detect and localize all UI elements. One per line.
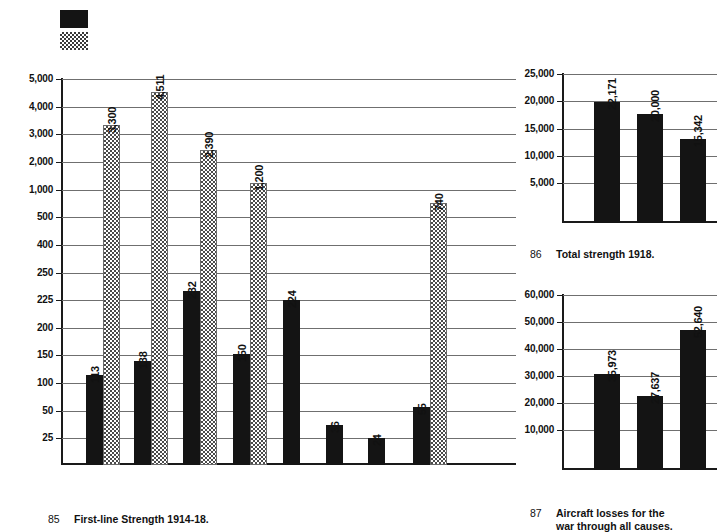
chart-87-aircraft-losses: 60,00050,00040,00030,00020,00010,00035,9…	[520, 280, 728, 490]
chart-85-y-label: 200	[6, 323, 53, 333]
caption-86-number: 86	[530, 248, 556, 261]
chart-85-bar-value: 4,511	[154, 74, 166, 99]
chart-85-bar-value: 138	[137, 352, 149, 369]
chart-85-bar-value: 740	[433, 193, 445, 210]
chart-86-bar	[594, 102, 620, 223]
caption-87: 87Aircraft losses for the war through al…	[530, 494, 673, 532]
chart-85-y-tick	[56, 162, 62, 163]
chart-87-bar-value: 27,637	[649, 372, 661, 404]
chart-85-y-tick	[56, 383, 62, 384]
chart-86-bar-value: 22,171	[606, 78, 618, 110]
chart-87-y-tick	[557, 376, 563, 377]
chart-87-y-label: 60,000	[520, 290, 554, 300]
chart-85-bar	[151, 92, 168, 465]
chart-85-y-tick	[56, 134, 62, 135]
chart-85-y-tick	[56, 273, 62, 274]
chart-86-plot-area: 25,00020,00015,00010,0005,00022,17120,00…	[562, 73, 717, 223]
chart-85-y-tick	[56, 411, 62, 412]
chart-87-y-tick	[557, 322, 563, 323]
chart-85-bar	[250, 183, 267, 465]
chart-85-gridline	[61, 190, 516, 191]
chart-85-gridline	[61, 217, 516, 218]
chart-85-y-label: 50	[6, 406, 53, 416]
chart-85-y-tick	[56, 79, 62, 80]
chart-85-y-tick	[56, 355, 62, 356]
caption-85: 85First-line Strength 1914-18.	[48, 500, 209, 526]
chart-85-y-label: 225	[6, 295, 53, 305]
chart-87-y-tick	[557, 349, 563, 350]
chart-85-bar	[430, 203, 447, 465]
chart-86-y-tick	[557, 183, 563, 184]
chart-86-bar-value: 15,342	[692, 115, 704, 147]
chart-85-y-tick	[56, 300, 62, 301]
chart-85-bar	[86, 375, 103, 465]
chart-85-y-label: 2,000	[6, 157, 53, 167]
chart-87-y-tick	[557, 403, 563, 404]
chart-85-y-label: 100	[6, 378, 53, 388]
chart-87-gridline	[562, 295, 717, 296]
chart-86-y-label: 15,000	[520, 124, 554, 134]
chart-85-bar-value: 150	[236, 345, 248, 362]
chart-87-bar	[594, 374, 620, 470]
chart-86-y-tick	[557, 74, 563, 75]
chart-85-bar-value: 113	[89, 366, 101, 383]
chart-85-gridline	[61, 107, 516, 108]
chart-87-bar	[680, 330, 706, 470]
chart-86-bar	[680, 139, 706, 223]
chart-86-gridline	[562, 101, 717, 102]
chart-85-bar-value: 36	[329, 422, 341, 434]
chart-87-plot-area: 60,00050,00040,00030,00020,00010,00035,9…	[562, 294, 717, 470]
chart-85-y-label: 400	[6, 240, 53, 250]
chart-86-y-label: 5,000	[520, 178, 554, 188]
chart-85-gridline	[61, 162, 516, 163]
chart-87-y-tick	[557, 430, 563, 431]
caption-85-number: 85	[48, 513, 74, 526]
chart-85-y-label: 500	[6, 212, 53, 222]
chart-87-y-label: 40,000	[520, 344, 554, 354]
chart-85-y-label: 25	[6, 433, 53, 443]
chart-87-y-label: 20,000	[520, 398, 554, 408]
chart-85-plot-area: 5,0004,0003,0002,0001,000500400250225200…	[61, 78, 516, 465]
chart-87-bar-value: 52,640	[692, 306, 704, 338]
figure-page: 5,0004,0003,0002,0001,000500400250225200…	[0, 0, 728, 532]
chart-87-y-label: 50,000	[520, 317, 554, 327]
caption-85-text: First-line Strength 1914-18.	[74, 513, 209, 526]
chart-87-y-axis	[562, 294, 564, 470]
chart-85-bar	[233, 354, 250, 465]
chart-85-gridline	[61, 79, 516, 80]
chart-85-bar	[283, 300, 300, 465]
chart-87-y-tick	[557, 295, 563, 296]
chart-85-y-label: 3,000	[6, 129, 53, 139]
chart-85-gridline	[61, 273, 516, 274]
chart-86-y-tick	[557, 129, 563, 130]
chart-85-y-label: 150	[6, 350, 53, 360]
chart-85-y-tick	[56, 217, 62, 218]
chart-87-y-label: 30,000	[520, 371, 554, 381]
chart-85-y-tick	[56, 245, 62, 246]
chart-85-bar	[183, 291, 200, 465]
chart-86-y-tick	[557, 156, 563, 157]
chart-85-bar-value: 24	[371, 435, 383, 447]
chart-85-y-tick	[56, 107, 62, 108]
caption-87-text: Aircraft losses for the war through all …	[556, 507, 673, 532]
chart-85-y-label: 5,000	[6, 74, 53, 84]
chart-85-y-label: 250	[6, 268, 53, 278]
chart-86-y-label: 20,000	[520, 96, 554, 106]
chart-85-bar-value: 232	[186, 282, 198, 299]
chart-86-y-label: 10,000	[520, 151, 554, 161]
chart-87-bar	[637, 396, 663, 470]
chart-86-bar-value: 20,000	[649, 90, 661, 122]
chart-85-bar	[413, 407, 430, 465]
chart-86-y-label: 25,000	[520, 69, 554, 79]
chart-85-bar	[103, 125, 120, 465]
chart-85-bar	[134, 361, 151, 465]
chart-87-bar-value: 35,973	[606, 350, 618, 382]
caption-86: 86Total strength 1918.	[530, 235, 654, 261]
caption-86-text: Total strength 1918.	[556, 248, 654, 261]
chart-85-bar-value: 55	[416, 403, 428, 415]
chart-86-y-axis	[562, 73, 564, 223]
chart-85-y-axis	[61, 78, 63, 465]
chart-85-bar-value: 1,200	[253, 165, 265, 191]
chart-85-bar-value: 224	[286, 291, 298, 308]
chart-86-y-tick	[557, 101, 563, 102]
